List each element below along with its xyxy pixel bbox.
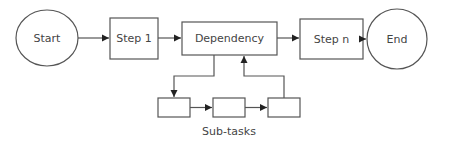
start-label: Start: [34, 32, 62, 45]
subtasks-group-label: Sub-tasks: [202, 125, 256, 138]
step1-node: Step 1: [110, 18, 158, 59]
subtask-box-2: [213, 98, 245, 117]
edge-subtask3-dependency: [244, 56, 284, 98]
subtask-box-3: [268, 98, 300, 117]
dependency-label: Dependency: [195, 32, 265, 45]
stepn-label: Step n: [314, 33, 350, 46]
dependency-node: Dependency: [182, 22, 277, 55]
subtask-box-1: [158, 98, 190, 117]
start-node: Start: [16, 10, 78, 66]
end-label: End: [387, 33, 408, 46]
end-node: End: [367, 9, 427, 69]
step1-label: Step 1: [116, 32, 152, 45]
flowchart-diagram: Start Step 1 Dependency Step n End Sub-t…: [0, 0, 462, 143]
stepn-node: Step n: [300, 19, 363, 59]
edge-dependency-subtask1: [174, 55, 214, 97]
